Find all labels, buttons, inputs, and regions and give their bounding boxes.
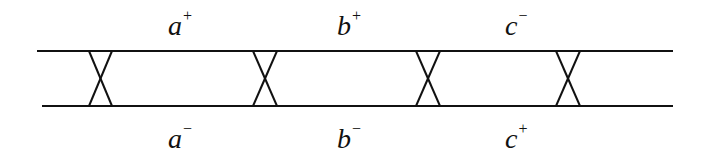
label-b-plus: b+ xyxy=(337,12,361,40)
label-base: b xyxy=(337,123,351,154)
crossing-1 xyxy=(89,51,112,106)
label-base: a xyxy=(168,10,182,41)
label-a-plus: a+ xyxy=(168,12,192,40)
label-sign: − xyxy=(183,120,192,137)
label-base: c xyxy=(505,123,517,154)
label-a-minus: a− xyxy=(168,125,192,153)
label-c-plus: c+ xyxy=(505,125,527,153)
label-base: c xyxy=(505,10,517,41)
label-sign: − xyxy=(518,7,527,24)
crossing-4 xyxy=(556,51,580,106)
label-sign: + xyxy=(183,7,192,24)
label-b-minus: b− xyxy=(337,125,361,153)
label-base: a xyxy=(168,123,182,154)
label-base: b xyxy=(337,10,351,41)
label-sign: + xyxy=(518,120,527,137)
crossing-2 xyxy=(253,51,277,106)
crossing-3 xyxy=(416,51,440,106)
label-sign: − xyxy=(352,120,361,137)
label-c-minus: c− xyxy=(505,12,527,40)
label-sign: + xyxy=(352,7,361,24)
